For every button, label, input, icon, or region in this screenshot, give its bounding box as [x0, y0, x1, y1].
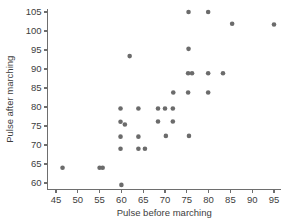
- data-point: [206, 10, 211, 15]
- data-point: [136, 134, 141, 139]
- x-tick-label: 90: [247, 194, 258, 205]
- x-tick-label: 85: [225, 194, 236, 205]
- data-point: [143, 147, 148, 152]
- data-point: [136, 106, 141, 111]
- x-tick-label: 95: [269, 194, 280, 205]
- y-tick-label: 60: [31, 177, 42, 188]
- y-tick-label: 90: [31, 63, 42, 74]
- data-point: [186, 90, 191, 95]
- data-point: [171, 106, 176, 111]
- data-point: [272, 22, 277, 27]
- y-axis: 6065707580859095100105: [26, 6, 48, 189]
- x-tick-label: 80: [203, 194, 214, 205]
- x-axis: 4550556065707580859095: [48, 190, 282, 205]
- x-tick-label: 45: [51, 194, 62, 205]
- x-tick-label: 75: [182, 194, 193, 205]
- data-point: [164, 134, 169, 139]
- data-point: [187, 134, 192, 139]
- y-tick-label: 105: [26, 6, 42, 17]
- data-point: [163, 106, 168, 111]
- data-point: [123, 122, 128, 127]
- data-point: [118, 134, 123, 139]
- plot-canvas: 6065707580859095100105 45505560657075808…: [0, 0, 289, 221]
- y-tick-label: 80: [31, 101, 42, 112]
- data-point: [186, 10, 191, 15]
- data-point: [118, 147, 123, 152]
- x-tick-label: 65: [138, 194, 149, 205]
- data-point: [156, 119, 161, 124]
- y-axis-title: Pulse after marching: [4, 56, 15, 143]
- data-point: [186, 71, 191, 76]
- data-point: [206, 90, 211, 95]
- data-point: [100, 166, 105, 171]
- data-point: [118, 120, 123, 125]
- data-point: [221, 71, 226, 76]
- y-tick-label: 95: [31, 44, 42, 55]
- data-point: [119, 183, 124, 188]
- data-point: [186, 47, 191, 52]
- y-tick-label: 85: [31, 82, 42, 93]
- data-point: [118, 106, 123, 111]
- data-point: [171, 119, 176, 124]
- y-tick-label: 70: [31, 139, 42, 150]
- x-tick-label: 50: [73, 194, 84, 205]
- data-point: [190, 71, 195, 76]
- scatter-plot-figure: 6065707580859095100105 45505560657075808…: [0, 0, 289, 221]
- y-tick-label: 100: [26, 25, 42, 36]
- data-point: [230, 21, 235, 26]
- data-point: [60, 166, 65, 171]
- data-points-layer: [60, 10, 276, 188]
- data-point: [156, 106, 161, 111]
- y-tick-label: 65: [31, 158, 42, 169]
- x-axis-title: Pulse before marching: [117, 207, 212, 218]
- data-point: [127, 54, 132, 59]
- x-tick-label: 60: [116, 194, 127, 205]
- data-point: [206, 71, 211, 76]
- x-tick-label: 70: [160, 194, 171, 205]
- data-point: [171, 90, 176, 95]
- x-tick-label: 55: [94, 194, 105, 205]
- y-tick-label: 75: [31, 120, 42, 131]
- data-point: [136, 147, 141, 152]
